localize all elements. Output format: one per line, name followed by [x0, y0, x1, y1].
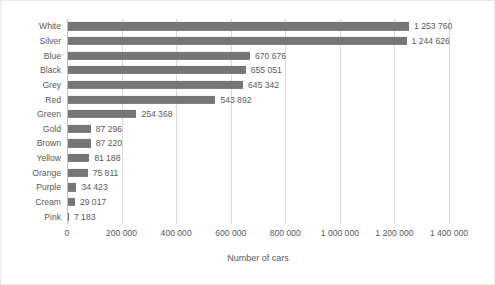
bar-row: Black655 051 [67, 63, 449, 78]
x-axis-title: Number of cars [67, 253, 449, 263]
bar-blue [67, 52, 250, 60]
category-label-black: Black [40, 65, 61, 75]
x-tick-label-1: 200 000 [106, 228, 137, 238]
bar-value-silver: 1 244 626 [412, 36, 450, 46]
bar-green [67, 110, 136, 118]
category-label-cream: Cream [35, 197, 61, 207]
bar-row: Red543 892 [67, 92, 449, 107]
category-label-grey: Grey [42, 80, 61, 90]
bar-value-pink: 7 183 [74, 212, 96, 222]
category-label-blue: Blue [44, 51, 61, 61]
bar-chart: White1 253 760Silver1 244 626Blue670 676… [0, 0, 495, 285]
category-label-gold: Gold [43, 124, 61, 134]
x-tick-label-6: 1 200 000 [375, 228, 413, 238]
category-label-purple: Purple [36, 182, 61, 192]
bar-value-brown: 87 220 [96, 138, 122, 148]
bar-row: Gold87 296 [67, 122, 449, 137]
bar-grey [67, 81, 243, 89]
category-label-yellow: Yellow [36, 153, 61, 163]
bar-value-gold: 87 296 [96, 124, 122, 134]
gridline-7 [449, 19, 450, 224]
bar-row: Orange75 811 [67, 165, 449, 180]
bar-value-yellow: 81 188 [94, 153, 120, 163]
x-tick-label-7: 1 400 000 [430, 228, 468, 238]
bar-brown [67, 139, 91, 147]
bar-black [67, 66, 246, 74]
bar-value-black: 655 051 [251, 65, 282, 75]
x-tick-label-5: 1 000 000 [321, 228, 359, 238]
x-tick-label-4: 800 000 [270, 228, 301, 238]
x-tick-label-2: 400 000 [161, 228, 192, 238]
bar-value-blue: 670 676 [255, 51, 286, 61]
bar-value-orange: 75 811 [93, 168, 119, 178]
bar-row: Pink7 183 [67, 209, 449, 224]
category-label-silver: Silver [40, 36, 62, 46]
bar-yellow [67, 154, 89, 162]
bar-row: Brown87 220 [67, 136, 449, 151]
bar-row: Blue670 676 [67, 48, 449, 63]
bar-value-grey: 645 342 [248, 80, 279, 90]
bar-orange [67, 169, 88, 177]
bar-row: Grey645 342 [67, 78, 449, 93]
category-label-red: Red [45, 95, 61, 105]
category-label-green: Green [37, 109, 61, 119]
category-label-pink: Pink [44, 212, 61, 222]
category-label-white: White [39, 21, 61, 31]
bar-cream [67, 198, 75, 206]
category-label-brown: Brown [37, 138, 61, 148]
bar-gold [67, 125, 91, 133]
bar-row: Green254 368 [67, 107, 449, 122]
bar-value-green: 254 368 [141, 109, 172, 119]
bar-silver [67, 37, 407, 45]
bar-row: White1 253 760 [67, 19, 449, 34]
y-axis-line [67, 19, 68, 224]
bar-value-red: 543 892 [220, 95, 251, 105]
bar-purple [67, 183, 76, 191]
bar-value-white: 1 253 760 [414, 21, 452, 31]
x-tick-label-3: 600 000 [215, 228, 246, 238]
bar-white [67, 22, 409, 30]
bar-row: Silver1 244 626 [67, 34, 449, 49]
bar-row: Purple34 423 [67, 180, 449, 195]
bar-row: Yellow81 188 [67, 151, 449, 166]
bar-red [67, 95, 215, 103]
bar-value-purple: 34 423 [81, 182, 107, 192]
category-label-orange: Orange [32, 168, 61, 178]
plot-area: White1 253 760Silver1 244 626Blue670 676… [67, 19, 449, 224]
bar-row: Cream29 017 [67, 195, 449, 210]
x-tick-label-0: 0 [65, 228, 70, 238]
bar-value-cream: 29 017 [80, 197, 106, 207]
